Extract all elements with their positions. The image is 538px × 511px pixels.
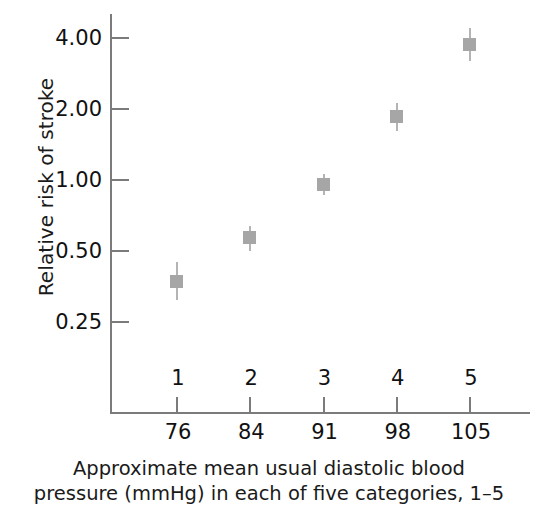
y-axis-tick-mark	[112, 179, 129, 181]
x-axis-tick-mark	[396, 397, 398, 412]
y-axis-tick-mark	[112, 321, 129, 323]
x-axis-tick-mark	[176, 397, 178, 412]
data-point-marker	[170, 275, 183, 288]
x-axis-caption: Approximate mean usual diastolic blood p…	[0, 456, 538, 506]
y-axis-tick-label: 0.25	[28, 312, 102, 333]
x-axis-value-label: 98	[368, 422, 428, 443]
y-axis-tick-mark	[112, 37, 129, 39]
x-axis-category-label: 1	[158, 368, 198, 389]
caption-line-1: Approximate mean usual diastolic blood	[0, 456, 538, 481]
y-axis-tick-mark	[112, 108, 129, 110]
x-axis-value-label: 84	[221, 422, 281, 443]
y-axis-line	[110, 14, 112, 414]
x-axis-value-label: 76	[148, 422, 208, 443]
data-point-marker	[390, 110, 403, 123]
x-axis-line	[110, 412, 530, 414]
x-axis-tick-mark	[249, 397, 251, 412]
x-axis-category-label: 4	[378, 368, 418, 389]
y-axis-tick-mark	[112, 250, 129, 252]
x-axis-value-label: 91	[295, 422, 355, 443]
x-axis-category-label: 5	[451, 368, 491, 389]
y-axis-tick-label: 2.00	[28, 99, 102, 120]
x-axis-tick-mark	[469, 397, 471, 412]
x-axis-value-label: 105	[441, 422, 501, 443]
data-point-marker	[463, 38, 476, 51]
y-axis-tick-label: 1.00	[28, 170, 102, 191]
caption-line-2: pressure (mmHg) in each of five categori…	[0, 481, 538, 506]
y-axis-tick-label: 4.00	[28, 28, 102, 49]
x-axis-tick-mark	[323, 397, 325, 412]
data-point-marker	[317, 178, 330, 191]
x-axis-category-label: 3	[305, 368, 345, 389]
chart-figure: Relative risk of stroke 4.002.001.000.50…	[0, 0, 538, 511]
data-point-marker	[243, 231, 256, 244]
x-axis-category-label: 2	[231, 368, 271, 389]
y-axis-tick-label: 0.50	[28, 241, 102, 262]
